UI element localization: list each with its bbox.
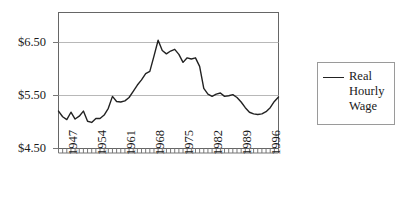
chart-figure: $6.50 $5.50 $4.50 1947 1954 1961 1968 19…: [0, 0, 410, 200]
legend-entry-real-hourly-wage: Real Hourly Wage: [323, 69, 393, 114]
y-axis-ticks: [53, 43, 59, 149]
legend-line-swatch-icon: [323, 77, 344, 78]
y-tick-label-550: $5.50: [0, 88, 46, 103]
chart-legend: Real Hourly Wage: [317, 62, 395, 125]
y-tick-label-450: $4.50: [0, 141, 46, 156]
x-tick-label-1947: 1947: [66, 130, 81, 155]
series-line-real-hourly-wage: [59, 40, 279, 122]
chart-plot-panel: $6.50 $5.50 $4.50 1947 1954 1961 1968 19…: [0, 0, 292, 200]
x-tick-label-1954: 1954: [95, 130, 110, 155]
x-tick-label-1982: 1982: [211, 130, 226, 155]
gridlines: [59, 43, 279, 96]
legend-entry-label: Real Hourly Wage: [349, 69, 393, 114]
plot-frame: [59, 13, 279, 149]
x-tick-label-1968: 1968: [153, 130, 168, 155]
x-tick-label-1989: 1989: [240, 130, 255, 155]
x-tick-label-1996: 1996: [269, 130, 284, 155]
y-tick-label-650: $6.50: [0, 35, 46, 50]
x-tick-label-1961: 1961: [124, 130, 139, 155]
x-tick-label-1975: 1975: [182, 130, 197, 155]
